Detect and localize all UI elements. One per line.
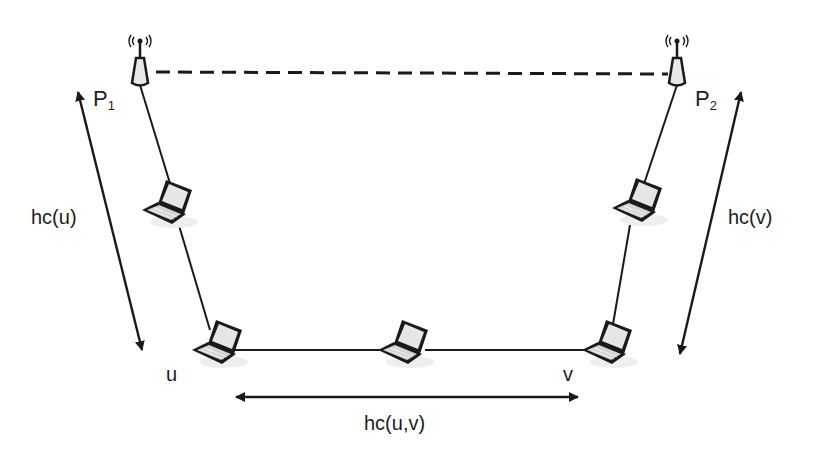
hc-uv-label: hc(u,v)	[364, 413, 425, 433]
v-laptop-icon	[582, 320, 638, 368]
hc-u-arrow	[78, 92, 142, 350]
u-laptop-icon	[192, 320, 248, 368]
p2-access-point-icon	[666, 35, 688, 86]
p1-label: P1	[93, 88, 115, 112]
p1-access-point-icon	[129, 35, 151, 86]
middle-relay-laptop-icon	[378, 320, 434, 368]
left-relay-laptop-icon	[142, 180, 198, 228]
path-links	[140, 85, 677, 350]
p1-p2-dashed-link	[156, 72, 668, 74]
hc-v-label: hc(v)	[728, 207, 772, 227]
right-relay-laptop-icon	[612, 178, 668, 226]
p2-label: P2	[695, 88, 717, 112]
hc-u-label: hc(u)	[31, 207, 77, 227]
v-label: v	[563, 364, 573, 384]
u-label: u	[166, 364, 177, 384]
network-diagram	[0, 0, 821, 454]
